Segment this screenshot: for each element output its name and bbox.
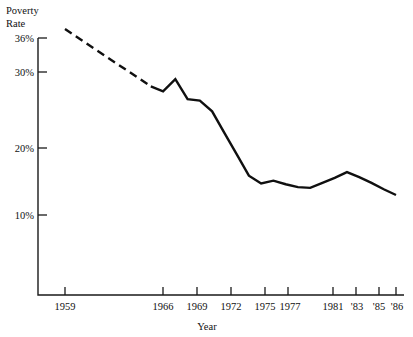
x-tick-label: 1969 [187,301,208,312]
y-tick-labels: 36% 30% 20% 10% [15,33,35,221]
poverty-rate-dashed-segment [65,29,151,86]
y-axis-title-line1: Poverty [6,5,39,16]
x-tick-label: 1972 [221,301,242,312]
x-tick-labels: 1959 1966 1969 1972 1975 1977 1981 '83 '… [55,301,404,312]
axis-lines [38,38,404,295]
x-tick-label: 1966 [153,301,174,312]
x-tick-label: 1977 [280,301,301,312]
x-tick-label: 1959 [55,301,76,312]
y-tick-label: 36% [15,33,35,44]
y-axis-title-line2: Rate [6,18,26,29]
x-tick-label: '85 [373,301,385,312]
poverty-rate-line-chart: Poverty Rate 36% 30% 20% 10% [0,0,413,337]
x-tick-label: '83 [351,301,363,312]
x-tick-label: 1975 [255,301,276,312]
chart-canvas: Poverty Rate 36% 30% 20% 10% [0,0,413,337]
x-tick-marks [65,287,396,295]
x-tick-label: 1981 [323,301,344,312]
poverty-rate-solid-segment [151,79,396,195]
x-axis-title: Year [197,321,217,332]
x-tick-label: '86 [391,301,403,312]
y-tick-label: 20% [15,143,35,154]
y-tick-label: 10% [15,210,35,221]
y-tick-label: 30% [15,67,35,78]
y-tick-marks [38,38,47,215]
